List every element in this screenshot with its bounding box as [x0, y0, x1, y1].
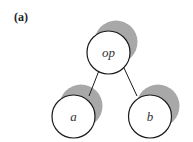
node-a: a: [52, 95, 95, 138]
node-b-label: b: [147, 109, 154, 124]
node-op-label: op: [102, 45, 116, 60]
edge-op-b: [124, 68, 137, 96]
node-op: op: [87, 31, 130, 74]
tree-diagram: op a b: [0, 0, 193, 142]
node-a-label: a: [70, 109, 77, 124]
node-b: b: [129, 95, 172, 138]
